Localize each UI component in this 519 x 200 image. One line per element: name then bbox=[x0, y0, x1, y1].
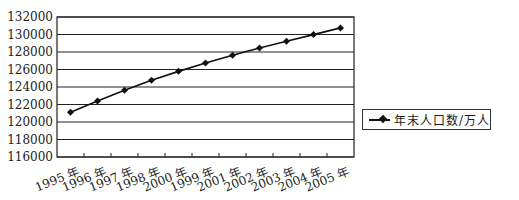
y-tick-label: 124000 bbox=[7, 80, 53, 94]
legend-label: 年末人口数/万人 bbox=[394, 111, 490, 128]
data-point-diamond-icon bbox=[283, 38, 290, 45]
y-tick-label: 130000 bbox=[7, 28, 53, 42]
legend-line-diamond-icon bbox=[369, 115, 390, 125]
data-point-diamond-icon bbox=[256, 45, 263, 52]
data-point-diamond-icon bbox=[229, 52, 236, 59]
y-tick-label: 128000 bbox=[7, 45, 53, 59]
data-point-diamond-icon bbox=[337, 24, 344, 31]
data-point-diamond-icon bbox=[310, 31, 317, 38]
y-axis: 1160001180001200001220001240001260001280… bbox=[7, 10, 53, 164]
y-tick-label: 118000 bbox=[7, 133, 53, 147]
data-point-diamond-icon bbox=[202, 59, 209, 66]
line-chart: 1160001180001200001220001240001260001280… bbox=[0, 0, 519, 200]
y-tick-label: 116000 bbox=[7, 150, 53, 164]
gridlines bbox=[57, 17, 354, 157]
data-point-diamond-icon bbox=[148, 77, 155, 84]
y-tick-label: 126000 bbox=[7, 63, 53, 77]
legend: 年末人口数/万人 bbox=[362, 109, 491, 130]
data-point-diamond-icon bbox=[67, 109, 74, 116]
data-point-diamond-icon bbox=[94, 98, 101, 105]
y-tick-label: 120000 bbox=[7, 115, 53, 129]
x-axis: 1995 年1996 年1997 年1998 年2000 年1999 年2001… bbox=[33, 153, 351, 194]
y-tick-label: 132000 bbox=[7, 10, 53, 24]
y-tick-label: 122000 bbox=[7, 98, 53, 112]
data-point-diamond-icon bbox=[121, 87, 128, 94]
